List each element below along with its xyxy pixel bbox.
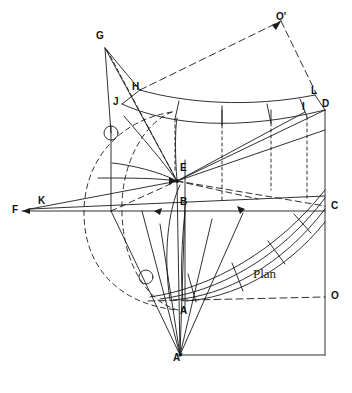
plan-caption: Plan xyxy=(253,266,276,282)
point-label-D: D xyxy=(322,99,329,109)
point-label-A-prime: A' xyxy=(173,353,183,363)
point-label-J: J xyxy=(113,97,119,107)
point-label-E: E xyxy=(180,163,187,173)
point-label-G: G xyxy=(96,31,104,41)
rays-to-Aprime xyxy=(111,181,243,355)
node-E xyxy=(175,179,179,183)
triangle-G xyxy=(105,48,177,211)
plan-arc-rules xyxy=(188,214,311,302)
point-label-O-prime: O' xyxy=(276,12,286,22)
arrowhead-F xyxy=(22,208,30,214)
point-label-B: B xyxy=(180,197,187,207)
band-upper xyxy=(122,90,325,123)
dashed-G-E xyxy=(107,50,177,181)
point-label-F: F xyxy=(12,205,18,215)
point-label-K: K xyxy=(38,196,45,206)
lower-marker-circle xyxy=(139,270,153,284)
point-label-O: O xyxy=(331,291,339,301)
axis-FC xyxy=(22,208,325,214)
dashed-A-O xyxy=(148,297,325,301)
rays-E-to-D xyxy=(177,110,325,181)
point-label-L: L xyxy=(311,86,317,96)
point-label-I: I xyxy=(302,102,305,112)
plan-border xyxy=(180,110,325,355)
point-label-C: C xyxy=(331,201,338,211)
dashed-E-C xyxy=(111,181,325,211)
point-label-A: A xyxy=(180,306,187,316)
arrowhead-Oprime xyxy=(272,21,281,30)
dashed-Oprime xyxy=(140,21,316,93)
geometry-figure xyxy=(0,0,352,393)
point-label-H: H xyxy=(132,82,139,92)
drawing-canvas: G O' H J L D I E K F B C O A A' Plan xyxy=(0,0,352,393)
